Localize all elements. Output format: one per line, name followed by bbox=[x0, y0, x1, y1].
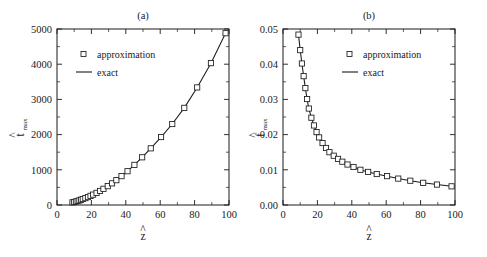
series-approximation-marker bbox=[158, 134, 163, 139]
series-approximation-marker bbox=[351, 164, 356, 169]
x-tick-label: 20 bbox=[86, 209, 97, 220]
legend-label-approximation: approximation bbox=[363, 49, 421, 60]
series-approximation-marker bbox=[311, 123, 316, 128]
series-approximation-marker bbox=[304, 96, 309, 101]
x-tick-label: 0 bbox=[280, 209, 285, 220]
series-approximation-marker bbox=[296, 32, 301, 37]
panel-b-ylabel: f ^ max bbox=[247, 118, 270, 138]
panel-b-legend: approximation exact bbox=[342, 49, 421, 78]
figure-canvas: (a) 020406080100010002000300040005000 ap… bbox=[0, 0, 487, 257]
series-approximation-marker bbox=[358, 167, 363, 172]
panel-a-ylabel-accent: ^ bbox=[7, 132, 19, 138]
series-approximation-marker bbox=[314, 130, 319, 135]
series-approximation-marker bbox=[298, 48, 303, 53]
legend-label-approximation: approximation bbox=[97, 49, 155, 60]
legend-label-exact: exact bbox=[363, 67, 384, 78]
series-approximation-marker bbox=[148, 146, 153, 151]
series-approximation-marker bbox=[119, 174, 124, 179]
y-tick-label: 0 bbox=[47, 200, 52, 211]
y-tick-label: 5000 bbox=[31, 24, 52, 35]
series-approximation-marker bbox=[317, 135, 322, 140]
series-approximation-marker bbox=[396, 176, 401, 181]
x-tick-label: 0 bbox=[54, 209, 59, 220]
x-tick-label: 100 bbox=[447, 209, 463, 220]
legend-marker-approximation bbox=[81, 52, 86, 57]
x-tick-label: 40 bbox=[121, 209, 132, 220]
panel-b-title: (b) bbox=[363, 10, 376, 22]
series-approximation-marker bbox=[309, 115, 314, 120]
y-tick-label: 1000 bbox=[31, 165, 52, 176]
series-approximation-marker bbox=[374, 171, 379, 176]
series-approximation-marker bbox=[208, 61, 213, 66]
panel-b-axes: 0204060801000.000.010.020.030.040.05 bbox=[260, 24, 463, 220]
panel-a-title: (a) bbox=[137, 10, 149, 22]
x-tick-label: 100 bbox=[221, 209, 237, 220]
series-approximation-marker bbox=[140, 155, 145, 160]
x-tick-label: 60 bbox=[155, 209, 166, 220]
panel-b-svg: (b) 0204060801000.000.010.020.030.040.05… bbox=[244, 0, 487, 257]
series-approximation-marker bbox=[421, 180, 426, 185]
y-tick-label: 3000 bbox=[31, 94, 52, 105]
series-approximation-marker bbox=[223, 31, 228, 36]
series-approximation-marker bbox=[170, 121, 175, 126]
panel-a-xlabel: z ^ bbox=[140, 223, 146, 243]
chart-panel-a: (a) 020406080100010002000300040005000 ap… bbox=[0, 0, 243, 257]
x-tick-label: 80 bbox=[189, 209, 200, 220]
series-approximation-marker bbox=[340, 159, 345, 164]
series-approximation-marker bbox=[299, 61, 304, 66]
series-approximation-marker bbox=[125, 169, 130, 174]
y-tick-label: 2000 bbox=[31, 129, 52, 140]
y-tick-label: 4000 bbox=[31, 59, 52, 70]
x-tick-label: 40 bbox=[347, 209, 358, 220]
panel-a-svg: (a) 020406080100010002000300040005000 ap… bbox=[0, 0, 243, 257]
panel-b-ylabel-accent: ^ bbox=[247, 132, 259, 138]
x-tick-label: 60 bbox=[381, 209, 392, 220]
legend-marker-approximation bbox=[347, 52, 352, 57]
series-approximation-marker bbox=[303, 86, 308, 91]
y-tick-label: 0.04 bbox=[260, 59, 279, 70]
panel-b-xlabel: z ^ bbox=[366, 223, 372, 243]
panel-a-ylabel-subscript: max bbox=[21, 118, 29, 131]
panel-a-legend: approximation exact bbox=[76, 49, 155, 78]
series-approximation-marker bbox=[408, 178, 413, 183]
series-approximation-marker bbox=[132, 162, 137, 167]
x-tick-label: 80 bbox=[415, 209, 426, 220]
y-tick-label: 0.03 bbox=[260, 94, 278, 105]
x-tick-label: 20 bbox=[312, 209, 323, 220]
y-tick-label: 0.01 bbox=[260, 165, 278, 176]
series-approximation-marker bbox=[366, 169, 371, 174]
series-approximation-marker bbox=[384, 174, 389, 179]
series-approximation-marker bbox=[182, 105, 187, 110]
series-approximation-marker bbox=[301, 74, 306, 79]
series-approximation-marker bbox=[320, 140, 325, 145]
panel-b-xlabel-accent: ^ bbox=[366, 223, 372, 235]
panel-a-xlabel-accent: ^ bbox=[140, 223, 146, 235]
y-tick-label: 0.00 bbox=[260, 200, 278, 211]
panel-a-ylabel: t ^ max bbox=[7, 118, 30, 138]
chart-panel-b: (b) 0204060801000.000.010.020.030.040.05… bbox=[244, 0, 487, 257]
series-approximation-marker bbox=[345, 162, 350, 167]
legend-label-exact: exact bbox=[97, 67, 118, 78]
series-approximation-marker bbox=[449, 184, 454, 189]
y-tick-label: 0.05 bbox=[260, 24, 278, 35]
series-approximation-marker bbox=[195, 85, 200, 90]
series-approximation-marker bbox=[114, 178, 119, 183]
series-approximation-marker bbox=[434, 182, 439, 187]
panel-b-ylabel-subscript: max bbox=[261, 118, 269, 131]
series-approximation-marker bbox=[306, 106, 311, 111]
